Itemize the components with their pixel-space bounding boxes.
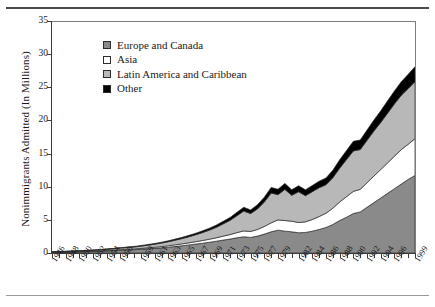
y-tick-mark (47, 187, 52, 188)
y-tick-mark (47, 154, 52, 155)
x-tick-mark (134, 254, 135, 258)
legend-label: Asia (117, 54, 137, 65)
y-tick-label: 10 (26, 182, 48, 192)
x-tick-mark (408, 254, 409, 258)
top-divider-rule (6, 7, 429, 9)
y-tick-mark (47, 220, 52, 221)
legend-label: Latin America and Caribbean (117, 69, 247, 80)
y-tick-mark (47, 54, 52, 55)
legend-item: Asia (103, 53, 303, 68)
x-tick-mark (292, 254, 293, 258)
legend-label: Europe and Canada (117, 40, 203, 51)
legend-swatch (103, 41, 111, 49)
legend-item: Europe and Canada (103, 38, 303, 53)
y-tick-label: 20 (26, 115, 48, 125)
y-tick-label: 30 (26, 49, 48, 59)
y-tick-mark (47, 21, 52, 22)
y-tick-label: 35 (26, 16, 48, 26)
legend-item: Latin America and Caribbean (103, 67, 303, 82)
x-axis-tick-labels: 1946194819501952195419561959196119631965… (0, 254, 435, 300)
y-tick-label: 5 (26, 215, 48, 225)
legend-label: Other (117, 83, 142, 94)
plot-right-border (415, 21, 416, 254)
legend-swatch (103, 85, 111, 93)
chart-figure: Nonimmigrants Admitted (In Millions) 051… (0, 0, 435, 307)
y-tick-label: 25 (26, 82, 48, 92)
chart-legend: Europe and CanadaAsiaLatin America and C… (103, 38, 303, 96)
y-tick-mark (47, 120, 52, 121)
legend-swatch (103, 56, 111, 64)
y-tick-mark (47, 87, 52, 88)
legend-item: Other (103, 82, 303, 97)
y-tick-mark (47, 253, 52, 254)
legend-swatch (103, 70, 111, 78)
y-tick-label: 15 (26, 149, 48, 159)
